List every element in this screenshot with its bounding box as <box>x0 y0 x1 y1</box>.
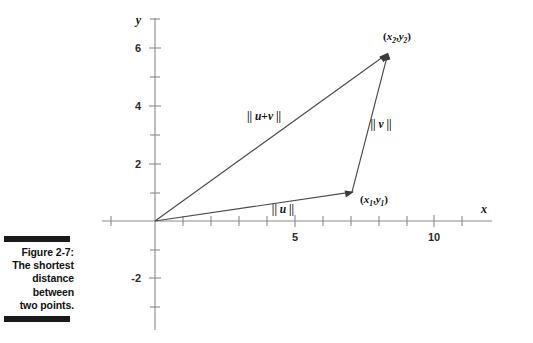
vector-u-line <box>155 193 348 221</box>
norm-v-open: || <box>370 118 378 131</box>
vector-u-plus-v-label: || u+v || <box>247 110 281 123</box>
y-tick-label-6: 6 <box>135 42 141 54</box>
vector-diagram: 5 10 6 4 2 -2 y x || u+v || || v || <box>0 0 533 343</box>
x-tick-label-10: 10 <box>428 231 440 243</box>
p1-close: ) <box>384 193 388 206</box>
x-axis-label: x <box>480 202 487 216</box>
norm-v-close: || <box>384 118 392 131</box>
y-tick-label-4: 4 <box>135 100 142 112</box>
vector-u-plus-v <box>155 53 388 221</box>
norm-u-close: || <box>286 203 294 216</box>
vector-v-label: || v || <box>370 118 391 131</box>
point-label-p2: (x2,y2) <box>383 30 411 45</box>
x-tick-label-5: 5 <box>292 231 298 243</box>
y-tick-label-negative-2: -2 <box>131 272 141 284</box>
y-tick-label-2: 2 <box>135 158 141 170</box>
point-label-p1: (x1,y1) <box>360 193 388 208</box>
axes-group <box>102 18 492 330</box>
norm-u-open: || <box>272 203 280 216</box>
norm-uv-close: || <box>273 110 281 123</box>
vector-u <box>155 191 354 221</box>
norm-uv-open: || <box>247 110 255 123</box>
y-axis-label: y <box>134 13 142 27</box>
p2-close: ) <box>407 30 411 43</box>
vector-u-plus-v-line <box>155 57 384 222</box>
vector-u-label: || u || <box>272 203 294 216</box>
